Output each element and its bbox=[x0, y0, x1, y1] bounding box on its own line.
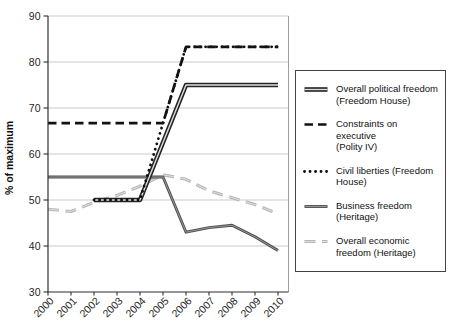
legend-box: Overall political freedom (Freedom House… bbox=[295, 70, 446, 272]
legend-label-line1: Overall economic bbox=[336, 235, 409, 246]
y-tick-label: 90 bbox=[29, 10, 41, 22]
dashed-line-sample-icon bbox=[303, 118, 329, 130]
y-tick-label: 70 bbox=[29, 102, 41, 114]
x-tick-label: 2006 bbox=[169, 294, 194, 319]
legend-label-line2: (Polity IV) bbox=[336, 141, 377, 152]
legend-item-overall-economic-freedom: Overall economic freedom (Heritage) bbox=[303, 235, 440, 258]
legend-label-line1: Civil liberties (Freedom bbox=[336, 165, 433, 176]
series-layer bbox=[48, 47, 278, 251]
legend-label: Civil liberties (Freedom House) bbox=[336, 165, 433, 188]
series-line-overall-political-freedom bbox=[94, 85, 278, 200]
x-tick-label: 2009 bbox=[238, 294, 263, 319]
x-tick-label: 2000 bbox=[31, 294, 56, 319]
legend-label-line1: Overall political freedom bbox=[336, 83, 438, 94]
x-tick-label: 2003 bbox=[100, 294, 125, 319]
x-tick-label: 2007 bbox=[192, 294, 217, 319]
legend-label-line1: Constraints on executive bbox=[336, 118, 397, 141]
legend-item-business-freedom: Business freedom (Heritage) bbox=[303, 200, 440, 223]
legend-label: Business freedom (Heritage) bbox=[336, 200, 412, 223]
legend-item-civil-liberties: Civil liberties (Freedom House) bbox=[303, 165, 440, 188]
legend-label-line2: (Heritage) bbox=[336, 211, 378, 222]
thick-solid-line-sample-icon bbox=[303, 83, 329, 95]
series-core-business-freedom bbox=[48, 177, 278, 251]
legend-label-line2: freedom (Heritage) bbox=[336, 247, 416, 258]
legend-label: Overall political freedom (Freedom House… bbox=[336, 83, 438, 106]
legend-item-constraints-on-executive: Constraints on executive (Polity IV) bbox=[303, 118, 440, 153]
series-core-overall-political-freedom bbox=[94, 85, 278, 200]
axis-layer bbox=[44, 16, 289, 296]
legend-label: Overall economic freedom (Heritage) bbox=[336, 235, 416, 258]
x-tick-label: 2008 bbox=[215, 294, 240, 319]
legend-label-line2: (Freedom House) bbox=[336, 95, 410, 106]
legend-item-overall-political-freedom: Overall political freedom (Freedom House… bbox=[303, 83, 440, 106]
axis-labels-layer: 3040506070809020002001200220032004200520… bbox=[3, 10, 286, 320]
gray-solid-line-sample-icon bbox=[303, 200, 329, 212]
y-tick-label: 50 bbox=[29, 194, 41, 206]
freedom-indicators-figure: 3040506070809020002001200220032004200520… bbox=[0, 0, 456, 327]
legend-label: Constraints on executive (Polity IV) bbox=[336, 118, 440, 153]
x-tick-label: 2002 bbox=[77, 294, 102, 319]
y-tick-label: 80 bbox=[29, 56, 41, 68]
light-dashed-line-sample-icon bbox=[303, 235, 329, 247]
series-line-business-freedom bbox=[48, 177, 278, 251]
x-tick-label: 2004 bbox=[123, 294, 148, 319]
legend-label-line1: Business freedom bbox=[336, 200, 412, 211]
x-tick-label: 2001 bbox=[54, 294, 79, 319]
x-tick-label: 2005 bbox=[146, 294, 171, 319]
y-tick-label: 30 bbox=[29, 286, 41, 298]
legend-label-line2: House) bbox=[336, 176, 367, 187]
y-axis-title: % of maximum bbox=[3, 121, 15, 195]
x-tick-label: 2010 bbox=[261, 294, 286, 319]
y-tick-label: 60 bbox=[29, 148, 41, 160]
y-tick-label: 40 bbox=[29, 240, 41, 252]
dotted-line-sample-icon bbox=[303, 165, 329, 177]
